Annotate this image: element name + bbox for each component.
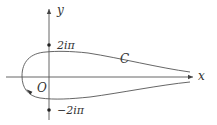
contour-label: C (120, 52, 129, 66)
point-minus-2ipi-label: −2iπ (57, 104, 85, 117)
x-axis-label: x (198, 69, 205, 83)
point-2ipi (47, 43, 51, 47)
origin-label: O (37, 81, 47, 95)
contour-c (22, 51, 190, 99)
y-axis-label: y (56, 3, 64, 17)
contour-diagram: y x O 2iπ −2iπ C (0, 0, 217, 125)
point-2ipi-label: 2iπ (56, 39, 76, 52)
point-minus-2ipi (47, 108, 51, 112)
